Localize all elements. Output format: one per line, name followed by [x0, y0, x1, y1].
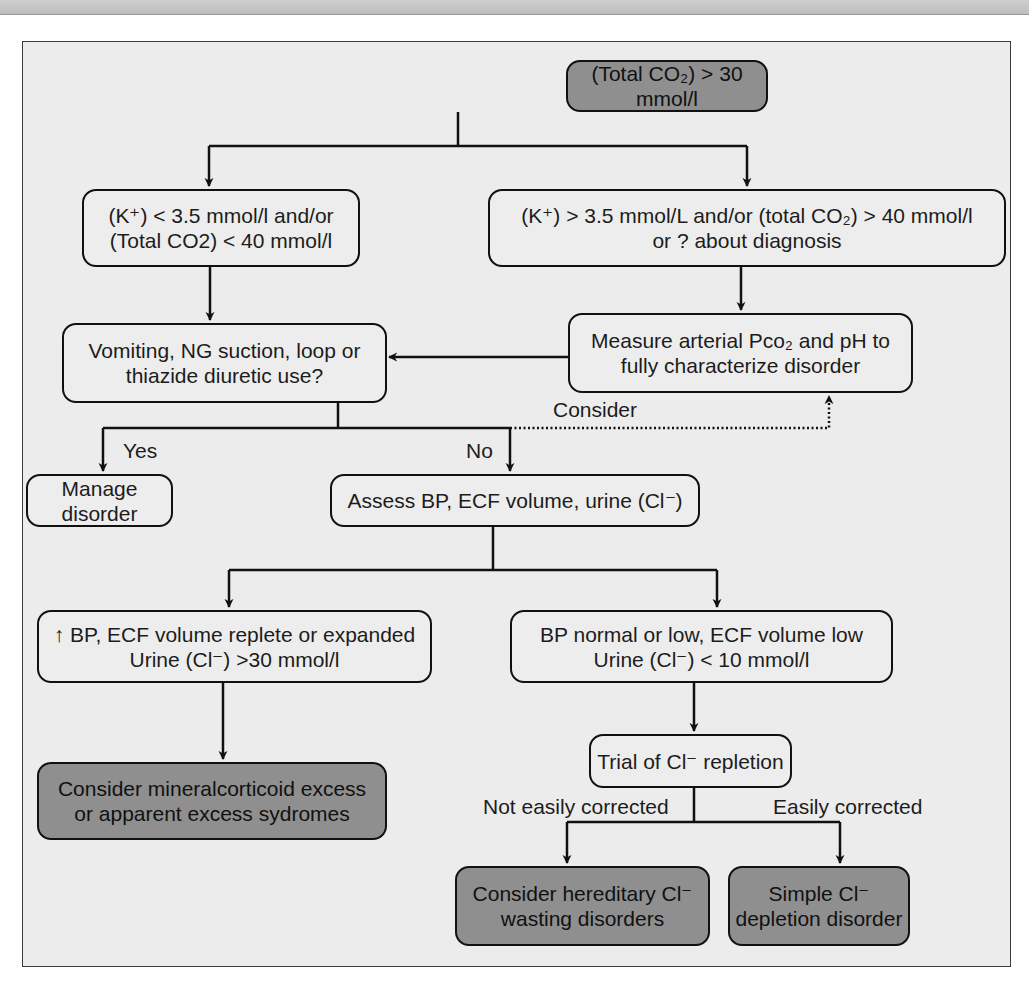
- label-yes: Yes: [123, 439, 157, 463]
- node-hereditary-wasting: Consider hereditary Cl⁻ wasting disorder…: [455, 866, 710, 946]
- node-low-potassium: (K⁺) < 3.5 mmol/l and/or (Total CO2) < 4…: [82, 189, 360, 267]
- node-low-bp: BP normal or low, ECF volume low Urine (…: [510, 610, 893, 683]
- node-manage-disorder: Manage disorder: [26, 474, 173, 527]
- node-high-potassium: (K⁺) > 3.5 mmol/L and/or (total CO₂) > 4…: [488, 189, 1006, 267]
- node-high-bp: ↑ BP, ECF volume replete or expanded Uri…: [37, 610, 432, 683]
- node-assess-bp: Assess BP, ECF volume, urine (Cl⁻): [330, 474, 700, 527]
- label-easily-corrected: Easily corrected: [773, 795, 922, 819]
- node-vomiting-question: Vomiting, NG suction, loop or thiazide d…: [62, 323, 387, 403]
- node-simple-depletion: Simple Cl⁻ depletion disorder: [728, 866, 910, 946]
- node-mineralocorticoid-excess: Consider mineralcorticoid excess or appa…: [37, 762, 387, 840]
- node-trial-chloride: Trial of Cl⁻ repletion: [589, 734, 792, 788]
- label-not-easily-corrected: Not easily corrected: [483, 795, 669, 819]
- label-no: No: [466, 439, 493, 463]
- node-total-co2-start: (Total CO₂) > 30 mmol/l: [566, 60, 768, 112]
- label-consider: Consider: [553, 398, 637, 422]
- node-measure-arterial: Measure arterial Pco₂ and pH to fully ch…: [568, 313, 913, 393]
